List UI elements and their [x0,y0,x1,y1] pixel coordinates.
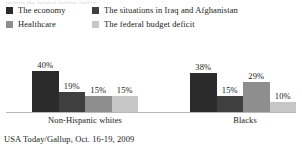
bar-healthcare [243,82,270,112]
legend-label-iraq-afghanistan: The situations in Iraq and Afghanistan [104,6,238,15]
bar-slot: 40% [32,38,59,112]
bar-budget-deficit [270,102,297,112]
bar-slot: 19% [59,38,86,112]
bar-slot: 29% [243,38,270,112]
bar-chart-plot: 40% 19% 15% 15% 38% 15% [0,36,302,114]
bar-slot: 15% [112,38,139,112]
legend-row: Healthcare The federal budget deficit [6,20,298,32]
bar-iraq-afghanistan [217,96,244,112]
bar-value-label: 15% [117,85,133,95]
bar-slot: 15% [85,38,112,112]
legend-label-budget-deficit: The federal budget deficit [104,20,195,29]
bar-slot: 38% [190,38,217,112]
bar-iraq-afghanistan [59,92,86,112]
bar-group-blacks: 38% 15% 29% 10% [190,38,296,112]
legend-swatch-healthcare [6,21,13,28]
legend-swatch-budget-deficit [92,21,99,28]
bar-economy [190,73,217,112]
source-note: USA Today/Gallup, Oct. 16-19, 2009 [4,134,134,144]
legend-item-iraq-afghanistan: The situations in Iraq and Afghanistan [92,6,238,15]
category-label-non-hispanic-whites: Non-Hispanic whites [10,115,160,125]
legend-swatch-economy [6,7,13,14]
bar-value-label: 15% [222,85,238,95]
bar-group-non-hispanic-whites: 40% 19% 15% 15% [32,38,138,112]
bar-value-label: 38% [195,62,211,72]
bar-economy [32,71,59,112]
legend-row: The economy The situations in Iraq and A… [6,6,298,18]
bar-value-label: 29% [248,71,264,81]
bar-value-label: 19% [64,81,80,91]
bar-slot: 10% [270,38,297,112]
bar-value-label: 40% [37,60,53,70]
bar-value-label: 10% [275,91,291,101]
legend-item-economy: The economy [6,6,92,15]
legend-label-economy: The economy [18,6,66,15]
clipped-top-text: reduce the federal budget deficit [6,0,296,4]
bar-healthcare [85,96,112,112]
axis-baseline [6,112,296,113]
bar-group-bars: 38% 15% 29% 10% [190,38,296,112]
legend-label-healthcare: Healthcare [18,20,56,29]
legend-item-healthcare: Healthcare [6,20,92,29]
bar-value-label: 15% [90,85,106,95]
legend-item-budget-deficit: The federal budget deficit [92,20,195,29]
bar-slot: 15% [217,38,244,112]
chart-legend: The economy The situations in Iraq and A… [6,6,298,34]
bar-budget-deficit [112,96,139,112]
category-label-blacks: Blacks [170,115,302,125]
legend-swatch-iraq-afghanistan [92,7,99,14]
bar-group-bars: 40% 19% 15% 15% [32,38,138,112]
